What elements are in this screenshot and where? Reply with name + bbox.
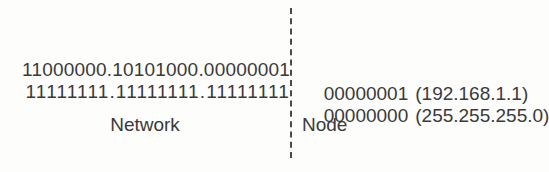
subnet-mask-dotted-decimal: (255.255.255.0) — [408, 105, 549, 126]
network-portion-label: Network — [0, 113, 290, 137]
ip-address-row: 11000000.10101000.00000001 00000001(192.… — [0, 58, 536, 82]
ip-address-network-bits: 11000000.10101000.00000001 — [0, 58, 290, 82]
node-portion-label: Node — [302, 113, 347, 137]
subnet-mask-network-bits: 11111111.11111111.11111111 — [0, 80, 290, 104]
subnet-mask-row: 11111111.11111111.11111111 00000000(255.… — [0, 80, 536, 104]
